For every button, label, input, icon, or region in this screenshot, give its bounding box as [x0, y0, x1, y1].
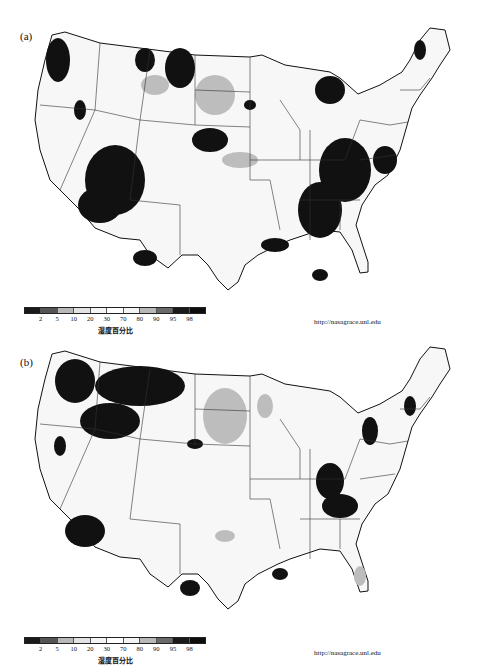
legend-tick: 20	[87, 645, 94, 652]
source-url: http://nasagrace.unl.edu	[314, 649, 381, 657]
legend-tick: 90	[153, 645, 160, 652]
legend-colorbar	[24, 637, 206, 644]
legend-tick: 98	[186, 645, 193, 652]
legend-title: 湿度百分比	[24, 655, 206, 665]
legend-tick: 2	[39, 645, 42, 652]
legend-tick: 20	[87, 315, 94, 322]
legend-tick: 5	[55, 645, 58, 652]
legend-tick: 30	[104, 315, 111, 322]
legend-tick: 2	[39, 315, 42, 322]
legend-ticks: 2 5 10 20 30 70 80 90 95 98	[24, 314, 206, 324]
legend-tick: 95	[170, 315, 177, 322]
legend: 2 5 10 20 30 70 80 90 95 98 湿度百分比	[24, 637, 206, 665]
legend-tick: 30	[104, 645, 111, 652]
legend-tick: 10	[70, 315, 77, 322]
legend-tick: 80	[137, 645, 144, 652]
legend: 2 5 10 20 30 70 80 90 95 98 湿度百分比	[24, 307, 206, 335]
map-panel-b: (b)	[0, 336, 492, 672]
legend-colorbar	[24, 307, 206, 314]
legend-tick: 5	[55, 315, 58, 322]
legend-tick: 80	[137, 315, 144, 322]
map-panel-a: (a)	[0, 0, 492, 336]
legend-tick: 70	[120, 315, 127, 322]
legend-tick: 98	[186, 315, 193, 322]
legend-tick: 70	[120, 645, 127, 652]
source-url: http://nasagrace.unl.edu	[314, 318, 381, 326]
legend-tick: 90	[153, 315, 160, 322]
legend-tick: 95	[170, 645, 177, 652]
legend-ticks: 2 5 10 20 30 70 80 90 95 98	[24, 644, 206, 654]
us-map-b	[0, 336, 492, 672]
us-map-a	[0, 0, 492, 336]
legend-title: 湿度百分比	[24, 325, 206, 335]
legend-tick: 10	[70, 645, 77, 652]
